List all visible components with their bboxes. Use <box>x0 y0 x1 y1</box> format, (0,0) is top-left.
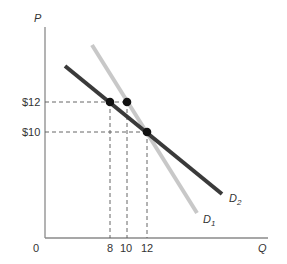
point-q8-p12 <box>106 98 115 107</box>
y-tick-10: $10 <box>22 126 40 138</box>
y-tick-12: $12 <box>22 96 40 108</box>
point-q12-p10 <box>143 128 152 137</box>
origin-label: 0 <box>33 242 39 254</box>
x-axis-label: Q <box>258 242 267 254</box>
x-tick-10: 10 <box>120 242 132 254</box>
demand-chart: P Q 0 $12 $10 8 10 12 D2 D1 <box>0 0 287 264</box>
d1-label: D1 <box>203 213 215 228</box>
x-tick-8: 8 <box>107 242 113 254</box>
y-axis-label: P <box>34 12 42 24</box>
d2-label: D2 <box>229 192 242 207</box>
x-tick-12: 12 <box>141 242 153 254</box>
point-q10-p12 <box>123 98 132 107</box>
